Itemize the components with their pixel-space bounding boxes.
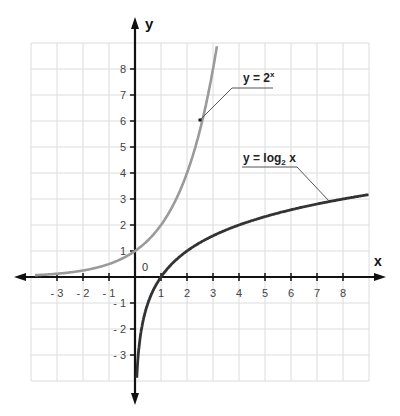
x-tick-label: 3 xyxy=(210,287,216,299)
label-log2: y = log2 x xyxy=(243,151,296,167)
annotations: yx0y = 2xy = log2 x xyxy=(142,15,382,273)
x-axis-label: x xyxy=(374,253,382,269)
curve-log2 xyxy=(137,195,369,378)
x-tick-label: 4 xyxy=(236,287,242,299)
x-tick-label: - 3 xyxy=(51,287,64,299)
x-axis-arrow-left-icon xyxy=(14,273,26,281)
y-tick-label: 3 xyxy=(120,193,126,205)
tick-marks: - 3- 2- 112345678- 3- 2- 112345678 xyxy=(51,63,346,361)
y-tick-label: 7 xyxy=(120,89,126,101)
x-tick-label: 6 xyxy=(288,287,294,299)
label-exp2: y = 2x xyxy=(243,70,275,85)
leader-line-exp2 xyxy=(200,88,273,120)
y-tick-label: 1 xyxy=(120,245,126,257)
grid-lines xyxy=(31,43,369,381)
y-tick-label: 8 xyxy=(120,63,126,75)
x-tick-label: 8 xyxy=(340,287,346,299)
y-tick-label: - 2 xyxy=(113,323,126,335)
x-axis-arrow-right-icon xyxy=(374,273,386,281)
y-tick-label: 4 xyxy=(120,167,126,179)
x-tick-label: 2 xyxy=(184,287,190,299)
y-axis-arrow-down-icon xyxy=(131,393,139,405)
x-tick-label: 5 xyxy=(262,287,268,299)
x-tick-label: - 2 xyxy=(77,287,90,299)
axes xyxy=(14,17,386,405)
x-tick-label: 1 xyxy=(158,287,164,299)
x-tick-label: 7 xyxy=(314,287,320,299)
curve-exp2 xyxy=(35,46,217,275)
leader-line-log2 xyxy=(242,167,329,201)
y-axis-label: y xyxy=(145,15,154,32)
annotation-point-exp2 xyxy=(198,118,202,122)
curves xyxy=(35,46,369,378)
y-tick-label: 2 xyxy=(120,219,126,231)
origin-label: 0 xyxy=(142,261,148,273)
y-axis-arrow-up-icon xyxy=(131,17,139,29)
function-graph: - 3- 2- 112345678- 3- 2- 112345678 yx0y … xyxy=(0,0,400,416)
y-tick-label: 5 xyxy=(120,141,126,153)
y-tick-label: - 1 xyxy=(113,297,126,309)
y-tick-label: - 3 xyxy=(113,349,126,361)
y-tick-label: 6 xyxy=(120,115,126,127)
